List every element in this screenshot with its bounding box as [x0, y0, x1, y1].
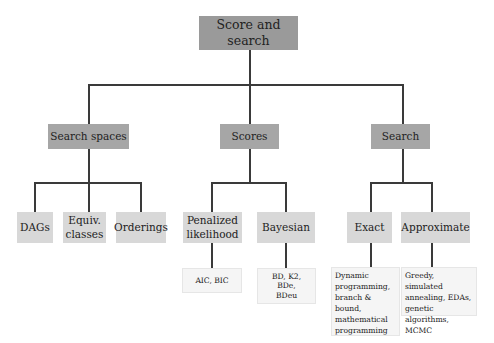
connector — [249, 50, 251, 84]
node-approximate: Approximate — [401, 212, 470, 243]
leaf-approximate-methods: Greedy, simulated annealing, EDAs, genet… — [401, 267, 477, 316]
connector — [370, 182, 432, 184]
node-search: Search — [371, 124, 430, 149]
node-equiv-classes: Equiv. classes — [63, 212, 106, 243]
node-search-spaces: Search spaces — [48, 124, 129, 149]
node-exact: Exact — [347, 212, 392, 243]
node-scores: Scores — [220, 124, 279, 149]
connector — [88, 182, 90, 212]
connector — [211, 182, 286, 184]
connector — [140, 182, 142, 212]
node-penalized-likelihood: Penalized likelihood — [183, 212, 242, 243]
root-node: Score and search — [199, 16, 298, 50]
leaf-bayesian-scores: BD, K2, BDe, BDeu — [257, 268, 316, 304]
node-dags: DAGs — [17, 212, 53, 243]
connector — [88, 84, 403, 86]
leaf-exact-methods: Dynamic programming, branch & bound, mat… — [331, 267, 400, 336]
leaf-aic-bic: AIC, BIC — [182, 268, 242, 293]
node-bayesian: Bayesian — [257, 212, 315, 243]
node-orderings: Orderings — [116, 212, 166, 243]
connector — [34, 182, 36, 212]
